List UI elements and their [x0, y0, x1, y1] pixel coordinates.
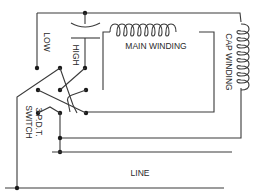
main-winding — [85, 24, 214, 112]
switch-label-2: SWITCH — [24, 105, 34, 139]
line-label: LINE — [131, 168, 150, 178]
low-label: LOW — [42, 32, 52, 51]
high-label: HIGH — [71, 44, 81, 65]
switch-label-1: 3 P.D.T. — [34, 107, 44, 136]
terminal-dot — [58, 136, 62, 140]
top-wire — [37, 13, 241, 22]
cap-winding-label: CAP WINDING — [224, 33, 234, 90]
junction-dot — [15, 186, 19, 190]
wiring-diagram: LOW HIGH MAIN WINDING CAP WINDING 3 P.D.… — [0, 0, 258, 194]
main-winding-label: MAIN WINDING — [125, 41, 186, 51]
